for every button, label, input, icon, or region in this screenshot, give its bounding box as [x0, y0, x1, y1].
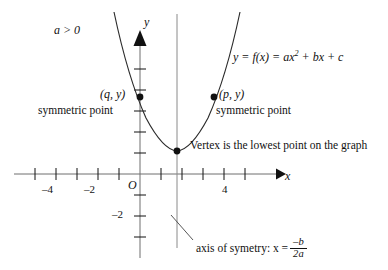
axis-of-symmetry-fraction: –b2a [290, 237, 307, 259]
symmetric-point-right-caption: symmetric point [216, 105, 291, 117]
symmetric-point-left-marker [137, 94, 144, 101]
symmetric-point-right-marker [211, 94, 218, 101]
function-equation-label: y = f(x) = ax2 + bx + c [233, 50, 343, 63]
equation-lhs: y = f(x) = ax [233, 50, 295, 64]
y-axis-group [134, 30, 147, 258]
axis-of-symmetry-caption: axis of symetry: x = [196, 242, 288, 254]
graph-canvas [0, 0, 388, 270]
x-tick-label-minus-4: –4 [42, 184, 53, 195]
x-axis-group [14, 168, 286, 180]
vertex-marker [174, 148, 181, 155]
symmetric-point-left-label: (q, y) [100, 88, 125, 100]
origin-label: O [128, 179, 137, 191]
vertex-description-note: Vertex is the lowest point on the graph [190, 140, 367, 152]
quadratic-graph-figure: a > 0 y x O –4 –2 4 –2 (q, y) symmetric … [0, 0, 388, 270]
y-axis-label: y [144, 16, 149, 28]
y-axis-arrowhead [134, 30, 147, 46]
equation-rhs: + bx + c [299, 50, 344, 64]
a-greater-than-zero-label: a > 0 [54, 24, 80, 36]
symmetric-point-right-label: (p, y) [219, 88, 244, 100]
symmetric-point-left-caption: symmetric point [38, 105, 113, 117]
fraction-denominator: 2a [290, 248, 307, 260]
x-tick-label-minus-2: –2 [84, 184, 95, 195]
fraction-numerator: –b [290, 237, 307, 248]
axis-of-symmetry-label: axis of symetry: x =–b2a [196, 238, 307, 260]
y-tick-label-minus-2: –2 [112, 209, 123, 220]
x-tick-label-4: 4 [222, 184, 228, 195]
axis-of-symmetry-leader-line [171, 215, 193, 240]
x-axis-label: x [285, 170, 290, 182]
